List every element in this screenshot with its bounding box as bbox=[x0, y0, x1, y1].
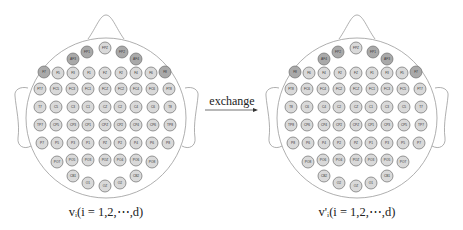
electrode-label: PO7 bbox=[400, 160, 407, 164]
electrode-fp1: FP1 bbox=[367, 46, 379, 58]
electrode-fc4: FC4 bbox=[130, 83, 142, 95]
electrode-fpz: FPZ bbox=[99, 42, 111, 54]
electrode-label: PO6 bbox=[133, 158, 140, 162]
electrode-label: T8 bbox=[289, 105, 293, 109]
electrode-p4: P4 bbox=[318, 137, 330, 149]
electrode-label: FC2 bbox=[118, 87, 124, 91]
electrode-po4: PO4 bbox=[114, 154, 126, 166]
electrode-label: P2 bbox=[118, 141, 122, 145]
electrode-label: FPZ bbox=[353, 46, 359, 50]
electrode-ft8: FT8 bbox=[163, 83, 175, 95]
electrode-label: PO6 bbox=[320, 158, 327, 162]
electrode-label: O2 bbox=[337, 181, 341, 185]
electrode-label: FT8 bbox=[288, 87, 294, 91]
electrode-fpz: FPZ bbox=[350, 42, 362, 54]
electrode-label: T8 bbox=[168, 105, 172, 109]
electrode-label: AF4 bbox=[133, 57, 139, 61]
electrode-p2: P2 bbox=[114, 137, 126, 149]
electrode-label: OZ bbox=[103, 184, 107, 188]
electrode-fp1: FP1 bbox=[81, 46, 93, 58]
electrode-label: F3 bbox=[71, 71, 75, 75]
electrode-p3: P3 bbox=[67, 137, 79, 149]
electrode-label: FC4 bbox=[320, 87, 326, 91]
electrode-tp7: TP7 bbox=[415, 119, 427, 131]
electrode-fc5: FC5 bbox=[50, 83, 62, 95]
electrode-f7: F7 bbox=[38, 66, 50, 78]
electrode-c3: C3 bbox=[381, 101, 393, 113]
electrode-fc3: FC3 bbox=[381, 83, 393, 95]
electrode-af3: AF3 bbox=[381, 53, 393, 65]
electrode-c6: C6 bbox=[147, 101, 159, 113]
electrode-ft7: FT7 bbox=[34, 83, 46, 95]
electrode-label: CP6 bbox=[150, 123, 156, 127]
electrode-po5: PO5 bbox=[66, 154, 78, 166]
electrode-label: PO5 bbox=[384, 158, 391, 162]
electrode-label: F6 bbox=[149, 71, 153, 75]
electrode-label: CB1 bbox=[384, 174, 390, 178]
electrode-cb1: CB1 bbox=[67, 170, 79, 182]
electrode-c2: C2 bbox=[333, 101, 345, 113]
electrode-c3: C3 bbox=[67, 101, 79, 113]
electrode-label: P5 bbox=[401, 141, 405, 145]
nose-outline bbox=[88, 15, 124, 39]
electrode-p6: P6 bbox=[302, 137, 314, 149]
electrode-po8: PO8 bbox=[302, 156, 314, 168]
electrode-label: P4 bbox=[322, 141, 326, 145]
electrode-label: CP5 bbox=[401, 123, 407, 127]
electrode-label: FC6 bbox=[304, 87, 310, 91]
electrode-af3: AF3 bbox=[67, 53, 79, 65]
electrode-cp5: CP5 bbox=[50, 119, 62, 131]
electrode-label: CPZ bbox=[353, 123, 359, 127]
electrode-label: TP7 bbox=[418, 123, 424, 127]
electrode-o1: O1 bbox=[365, 177, 377, 189]
electrode-label: P3 bbox=[385, 141, 389, 145]
electrode-c2: C2 bbox=[114, 101, 126, 113]
electrode-label: C2 bbox=[118, 105, 122, 109]
electrode-c5: C5 bbox=[50, 101, 62, 113]
electrode-label: C3 bbox=[71, 105, 75, 109]
electrode-p4: P4 bbox=[130, 137, 142, 149]
electrode-label: F1 bbox=[370, 71, 374, 75]
electrode-label: F6 bbox=[307, 71, 311, 75]
electrode-p2: P2 bbox=[333, 137, 345, 149]
electrode-label: C4 bbox=[134, 105, 138, 109]
electrode-po7: PO7 bbox=[397, 156, 409, 168]
electrode-label: O2 bbox=[118, 181, 122, 185]
electrode-label: CB2 bbox=[321, 174, 327, 178]
electrode-fc5: FC5 bbox=[397, 83, 409, 95]
electrode-oz: OZ bbox=[350, 180, 362, 192]
electrode-label: FT7 bbox=[417, 87, 423, 91]
electrode-f3: F3 bbox=[381, 67, 393, 79]
electrode-t7: T7 bbox=[34, 101, 46, 113]
electrode-label: FC5 bbox=[400, 87, 406, 91]
electrode-f6: F6 bbox=[145, 67, 157, 79]
electrode-po8: PO8 bbox=[146, 156, 158, 168]
electrode-label: P2 bbox=[337, 141, 341, 145]
electrode-p3: P3 bbox=[381, 137, 393, 149]
electrode-label: FC1 bbox=[369, 87, 375, 91]
electrode-label: CP2 bbox=[117, 123, 123, 127]
electrode-cz: CZ bbox=[99, 101, 111, 113]
electrode-label: F8 bbox=[163, 70, 167, 74]
electrode-label: F1 bbox=[87, 71, 91, 75]
electrode-label: FC4 bbox=[133, 87, 139, 91]
electrode-label: FP2 bbox=[119, 50, 125, 54]
electrode-label: AF3 bbox=[70, 57, 76, 61]
electrode-ft8: FT8 bbox=[285, 83, 297, 95]
electrode-p8: P8 bbox=[162, 137, 174, 149]
electrode-p5: P5 bbox=[51, 137, 63, 149]
electrode-po6: PO6 bbox=[130, 154, 142, 166]
electrode-label: CP2 bbox=[336, 123, 342, 127]
electrode-f5: F5 bbox=[52, 67, 64, 79]
electrode-label: CP4 bbox=[133, 123, 139, 127]
electrode-f2: F2 bbox=[115, 67, 127, 79]
electrode-label: FC3 bbox=[69, 87, 75, 91]
electrode-p7: P7 bbox=[413, 137, 425, 149]
electrode-po3: PO3 bbox=[365, 154, 377, 166]
electrode-fcz: FCZ bbox=[350, 83, 362, 95]
electrode-label: FPZ bbox=[102, 46, 108, 50]
electrode-oz: OZ bbox=[99, 180, 111, 192]
electrode-f1: F1 bbox=[83, 67, 95, 79]
electrode-tp8: TP8 bbox=[285, 119, 297, 131]
electrode-label: CZ bbox=[354, 105, 358, 109]
